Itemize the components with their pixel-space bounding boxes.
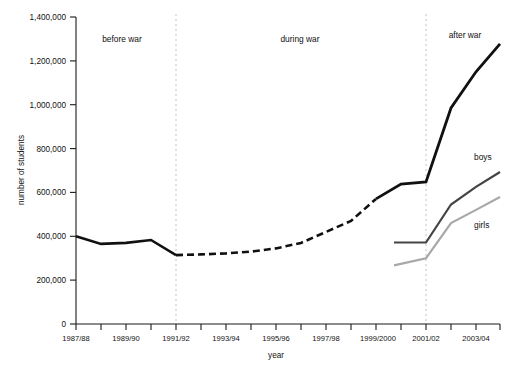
x-tick-label-1999-2000: 1999/2000 <box>360 334 396 343</box>
y-tick-label-0: 0 <box>61 320 66 329</box>
line-chart: 0 200,000 400,000 600,000 800,000 1,000,… <box>0 0 512 377</box>
series-total-dashed-war <box>176 199 376 255</box>
annotation-after-war: after war <box>449 30 482 40</box>
x-tick-marks <box>76 324 500 330</box>
x-tick-label-1993-94: 1993/94 <box>212 334 239 343</box>
series-total-solid-prewar <box>76 236 176 255</box>
y-tick-marks <box>70 17 76 324</box>
x-tick-label-1995-96: 1995/96 <box>262 334 289 343</box>
y-tick-label-600000: 600,000 <box>36 188 66 197</box>
series-girls <box>394 197 500 265</box>
x-tick-label-1989-90: 1989/90 <box>112 334 139 343</box>
y-axis-title: number of students <box>17 135 26 205</box>
x-tick-label-2003-04: 2003/04 <box>462 334 489 343</box>
series-total-solid-postwar <box>376 44 500 199</box>
y-tick-label-800000: 800,000 <box>36 145 66 154</box>
y-tick-label-1200000: 1,200,000 <box>30 57 67 66</box>
annotation-during-war: during war <box>280 34 319 44</box>
series-label-boys: boys <box>474 152 492 162</box>
x-tick-label-1991-92: 1991/92 <box>162 334 189 343</box>
x-tick-label-2001-02: 2001/02 <box>412 334 439 343</box>
chart-container: 0 200,000 400,000 600,000 800,000 1,000,… <box>0 0 512 377</box>
x-tick-label-1997-98: 1997/98 <box>312 334 339 343</box>
series-label-girls: girls <box>474 220 489 230</box>
x-axis-title: year <box>268 351 284 360</box>
y-tick-label-200000: 200,000 <box>36 276 66 285</box>
y-tick-label-1400000: 1,400,000 <box>30 13 67 22</box>
x-tick-label-1987-88: 1987/88 <box>62 334 89 343</box>
y-tick-label-1000000: 1,000,000 <box>30 101 67 110</box>
y-tick-label-400000: 400,000 <box>36 232 66 241</box>
annotation-before-war: before war <box>102 34 142 44</box>
